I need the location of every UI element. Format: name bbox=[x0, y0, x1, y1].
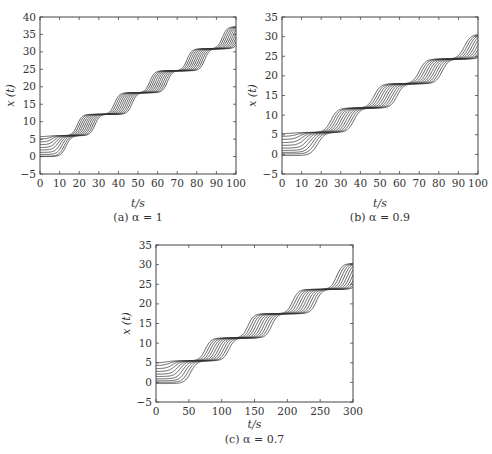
y-tick-label: 20 bbox=[23, 80, 36, 92]
x-tick-label: 200 bbox=[277, 405, 297, 417]
x-tick-label: 250 bbox=[310, 405, 330, 417]
data-series-line bbox=[282, 35, 478, 136]
y-tick-label: 35 bbox=[23, 28, 36, 40]
x-tick-label: 70 bbox=[171, 177, 184, 189]
y-tick-label: 10 bbox=[265, 109, 278, 121]
x-tick-label: 60 bbox=[393, 177, 406, 189]
data-series-line bbox=[40, 28, 236, 145]
data-series-line bbox=[40, 42, 236, 156]
x-tick-label: 20 bbox=[73, 177, 86, 189]
y-tick-label: 25 bbox=[139, 278, 152, 290]
data-series-line bbox=[282, 35, 478, 134]
x-tick-label: 80 bbox=[432, 177, 445, 189]
x-axis-label: t/s bbox=[131, 197, 145, 210]
data-series-line bbox=[156, 264, 353, 366]
plot-frame bbox=[40, 17, 236, 174]
y-tick-label: 0 bbox=[29, 150, 36, 162]
y-tick-label: 30 bbox=[265, 30, 278, 42]
plot-frame bbox=[282, 17, 478, 174]
data-series-line bbox=[156, 266, 353, 374]
chart-panel-a: 0102030405060708090100−50510152025303540… bbox=[4, 11, 246, 225]
data-series-line bbox=[40, 28, 236, 147]
y-tick-label: 20 bbox=[265, 69, 278, 81]
y-tick-label: 5 bbox=[271, 128, 278, 140]
x-tick-label: 30 bbox=[92, 177, 105, 189]
x-tick-label: 90 bbox=[452, 177, 465, 189]
x-tick-label: 100 bbox=[226, 177, 246, 189]
chart-panel-c: 050100150200250300−505101520253035t/sx (… bbox=[120, 239, 363, 447]
x-axis: 0102030405060708090100 bbox=[279, 17, 488, 189]
y-tick-label: 15 bbox=[23, 98, 36, 110]
data-series-line bbox=[40, 27, 236, 142]
data-series-line bbox=[40, 30, 236, 150]
y-tick-label: 20 bbox=[139, 297, 152, 309]
x-tick-label: 40 bbox=[354, 177, 367, 189]
x-tick-label: 10 bbox=[295, 177, 308, 189]
x-tick-label: 150 bbox=[244, 405, 264, 417]
x-tick-label: 300 bbox=[343, 405, 363, 417]
y-tick-label: 40 bbox=[23, 11, 36, 23]
data-series-line bbox=[40, 45, 236, 156]
data-series-line bbox=[282, 40, 478, 145]
y-tick-label: 0 bbox=[271, 148, 278, 160]
y-tick-label: 35 bbox=[265, 11, 278, 23]
y-tick-label: 10 bbox=[23, 115, 36, 127]
x-tick-label: 50 bbox=[182, 405, 195, 417]
figure: 0102030405060708090100−50510152025303540… bbox=[0, 0, 492, 454]
y-tick-label: 35 bbox=[139, 239, 152, 251]
chart-panel-b: 0102030405060708090100−505101520253035t/… bbox=[246, 11, 488, 225]
x-tick-label: 30 bbox=[334, 177, 347, 189]
y-tick-label: 30 bbox=[139, 258, 152, 270]
subfigure-caption: (c) α = 0.7 bbox=[225, 433, 284, 446]
y-tick-label: 10 bbox=[139, 337, 152, 349]
y-tick-label: 15 bbox=[265, 89, 278, 101]
x-tick-label: 100 bbox=[468, 177, 488, 189]
x-axis: 050100150200250300 bbox=[153, 245, 363, 417]
y-axis-label: x (t) bbox=[120, 312, 133, 335]
series-group bbox=[282, 35, 478, 156]
x-tick-label: 100 bbox=[212, 405, 232, 417]
x-tick-label: 40 bbox=[112, 177, 125, 189]
series-group bbox=[156, 264, 353, 384]
x-tick-label: 50 bbox=[373, 177, 386, 189]
y-tick-label: 5 bbox=[145, 356, 152, 368]
data-series-line bbox=[40, 27, 236, 139]
subfigure-caption: (b) α = 0.9 bbox=[350, 211, 410, 224]
x-tick-label: 60 bbox=[151, 177, 164, 189]
x-tick-label: 0 bbox=[153, 405, 160, 417]
x-axis-label: t/s bbox=[248, 418, 262, 431]
series-group bbox=[40, 27, 236, 157]
y-tick-label: 5 bbox=[29, 133, 36, 145]
subfigure-caption: (a) α = 1 bbox=[113, 211, 162, 224]
x-tick-label: 0 bbox=[279, 177, 286, 189]
y-tick-label: 25 bbox=[265, 50, 278, 62]
x-tick-label: 20 bbox=[315, 177, 328, 189]
data-series-line bbox=[282, 50, 478, 151]
x-tick-label: 10 bbox=[53, 177, 66, 189]
x-axis: 0102030405060708090100 bbox=[37, 17, 246, 189]
y-tick-label: 0 bbox=[145, 376, 152, 388]
x-tick-label: 50 bbox=[131, 177, 144, 189]
x-tick-label: 80 bbox=[190, 177, 203, 189]
x-axis-label: t/s bbox=[373, 197, 387, 210]
y-tick-label: −5 bbox=[137, 396, 152, 408]
y-tick-label: 25 bbox=[23, 63, 36, 75]
x-tick-label: 70 bbox=[413, 177, 426, 189]
y-tick-label: 15 bbox=[139, 317, 152, 329]
y-tick-label: 30 bbox=[23, 45, 36, 57]
y-tick-label: −5 bbox=[21, 168, 36, 180]
y-axis-label: x (t) bbox=[246, 84, 259, 107]
x-tick-label: 0 bbox=[37, 177, 44, 189]
data-series-line bbox=[40, 27, 236, 137]
y-tick-label: −5 bbox=[263, 168, 278, 180]
data-series-line bbox=[156, 264, 353, 363]
x-tick-label: 90 bbox=[210, 177, 223, 189]
y-axis-label: x (t) bbox=[4, 84, 17, 107]
